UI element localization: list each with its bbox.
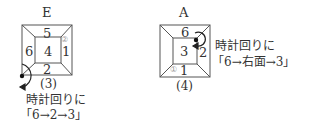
pivot-dot-a xyxy=(194,38,198,42)
marker-a: ① xyxy=(170,66,177,74)
face-left-e: 6 xyxy=(25,45,33,58)
face-center-e: 4 xyxy=(44,45,52,58)
face-top-e: 5 xyxy=(43,27,51,40)
face-bottom-e: 2 xyxy=(43,63,51,76)
caption-a-line2: 「6→右面→3」 xyxy=(212,56,295,68)
caption-a-line1: 時計回りに xyxy=(215,40,275,52)
figure-a-title: A xyxy=(179,6,188,19)
figure-e-title: E xyxy=(42,6,52,19)
face-right-a: 2 xyxy=(199,46,207,59)
marker-e: ② xyxy=(61,36,68,44)
figure-e-number: (3) xyxy=(40,78,57,90)
face-top-a: 6 xyxy=(181,26,189,39)
face-bottom-a: 1 xyxy=(180,64,188,77)
caption-e-line2: 「6→2→3」 xyxy=(20,109,87,121)
face-center-a: 3 xyxy=(180,45,188,58)
figure-a-number: (4) xyxy=(176,80,193,92)
face-right-e: 1 xyxy=(62,45,70,58)
caption-e-line1: 時計回りに xyxy=(26,94,86,106)
pivot-dot-e xyxy=(20,74,24,78)
